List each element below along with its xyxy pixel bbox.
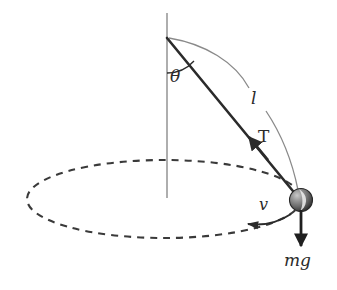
angle-label-theta: θ (170, 68, 180, 85)
length-indicator-curve-upper (169, 38, 249, 88)
velocity-arrow (248, 214, 291, 225)
velocity-label-v: v (259, 197, 268, 213)
conical-pendulum-figure (0, 0, 337, 290)
diagram-canvas: θ l T v mg (0, 0, 337, 290)
pendulum-string (167, 38, 297, 196)
weight-label-mg: mg (284, 252, 311, 269)
length-label-l: l (251, 90, 256, 107)
tension-label-T: T (258, 128, 269, 145)
